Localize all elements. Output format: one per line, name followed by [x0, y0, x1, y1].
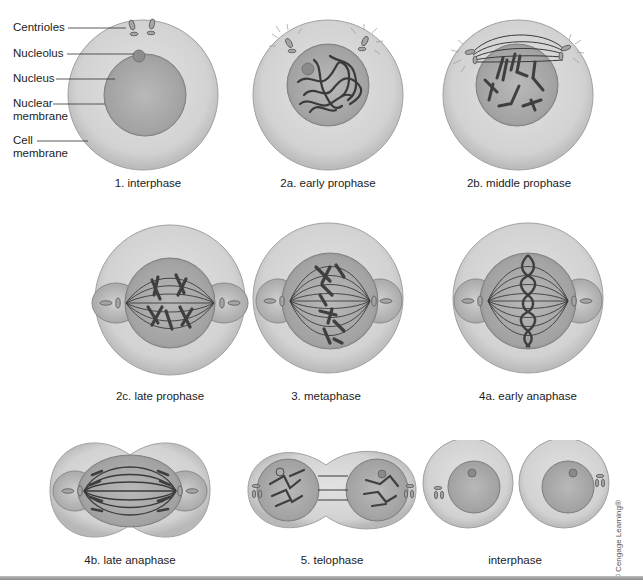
- stage-telophase: 5. telophase: [240, 440, 420, 575]
- stage-late-prophase: 2c. late prophase: [80, 215, 260, 410]
- caption-telophase: 5. telophase: [301, 554, 364, 566]
- caption-metaphase: 3. metaphase: [291, 390, 361, 402]
- stage-early-prophase: 2a. early prophase: [210, 0, 430, 195]
- caption-middle-prophase: 2b. middle prophase: [467, 177, 571, 189]
- cell-diagram-middle-prophase: [423, 0, 643, 195]
- caption-interphase-2: interphase: [488, 554, 542, 566]
- cell-diagram-late-anaphase: [40, 425, 220, 575]
- label-centrioles: Centrioles: [13, 21, 65, 34]
- label-nucleolus: Nucleolus: [13, 47, 64, 60]
- caption-late-prophase: 2c. late prophase: [116, 390, 204, 402]
- stage-middle-prophase: 2b. middle prophase: [423, 0, 643, 195]
- stage-interphase-2: interphase: [420, 440, 630, 575]
- caption-late-anaphase: 4b. late anaphase: [84, 554, 175, 566]
- cell-diagram-early-prophase: [210, 0, 430, 195]
- stage-late-anaphase: 4b. late anaphase: [40, 425, 220, 575]
- cell-diagram-metaphase: [250, 215, 410, 410]
- label-nuclear-membrane: Nuclear membrane: [13, 97, 68, 123]
- copyright-notice: © Cengage Learning®: [614, 500, 623, 580]
- cut-off-caption-strip: [0, 580, 643, 588]
- caption-early-anaphase: 4a. early anaphase: [479, 390, 577, 402]
- label-cell-membrane: Cell membrane: [13, 134, 68, 160]
- caption-interphase-1: 1. interphase: [115, 177, 182, 189]
- stage-early-anaphase: 4a. early anaphase: [440, 215, 610, 410]
- stage-metaphase: 3. metaphase: [250, 215, 410, 410]
- cell-diagram-early-anaphase: [440, 215, 610, 410]
- stage-interphase-1: Centrioles Nucleolus Nucleus Nuclear mem…: [0, 0, 220, 195]
- caption-early-prophase: 2a. early prophase: [280, 177, 375, 189]
- cell-diagram-late-prophase: [80, 215, 260, 410]
- label-nucleus: Nucleus: [13, 72, 55, 85]
